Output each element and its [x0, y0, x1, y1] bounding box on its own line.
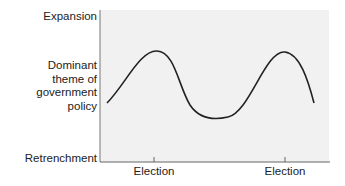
chart-plot [0, 0, 345, 186]
x-label-election-1: Election [124, 165, 184, 177]
plot-background [100, 10, 329, 162]
x-label-election-2: Election [255, 165, 315, 177]
